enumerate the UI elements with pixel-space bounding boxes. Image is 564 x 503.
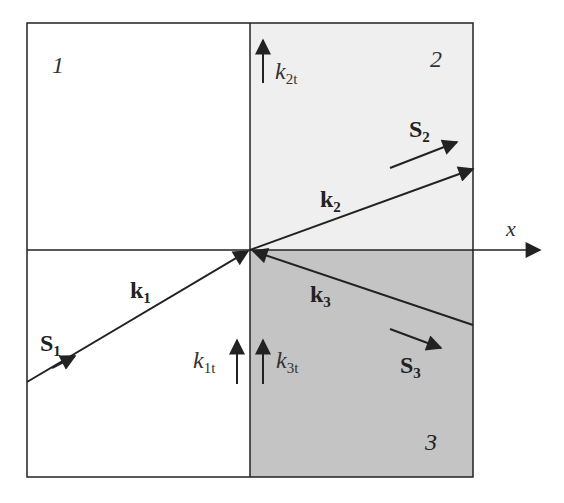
region-2-label: 2 bbox=[430, 46, 442, 72]
region-3-label: 3 bbox=[424, 429, 437, 455]
diagram-canvas: 1 2 3 x k1 k2 k3 S1 S2 S3 k2t k1t k3t bbox=[0, 0, 564, 503]
x-axis-label: x bbox=[505, 216, 516, 241]
region-1-label: 1 bbox=[52, 52, 64, 78]
